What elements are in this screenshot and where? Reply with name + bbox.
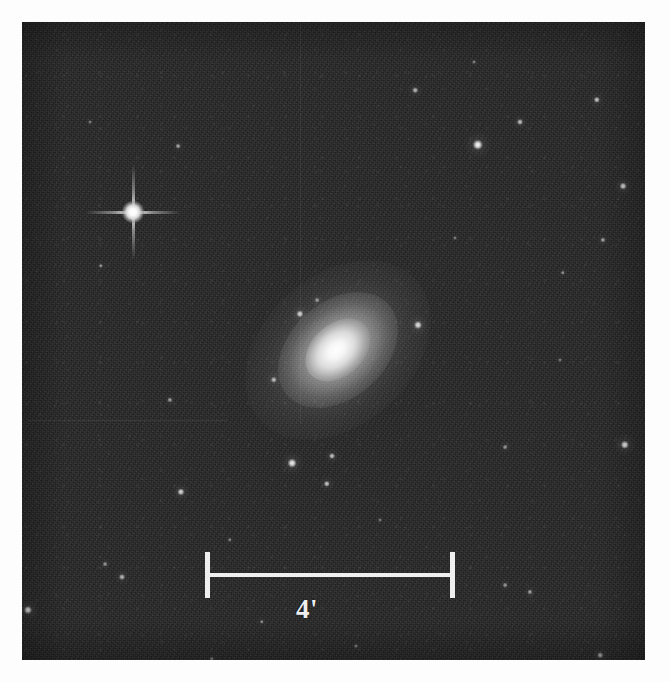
sky-image-plate: 4'	[22, 22, 645, 660]
star	[210, 657, 214, 660]
star	[414, 321, 422, 329]
star	[271, 377, 277, 383]
star	[228, 538, 232, 542]
galaxy-outer-halo	[210, 224, 466, 476]
film-grain-layer-a	[22, 22, 645, 660]
star	[324, 481, 330, 487]
plate-vignette	[22, 22, 645, 660]
star	[473, 140, 483, 150]
star	[620, 183, 627, 190]
star	[412, 87, 418, 93]
star	[472, 60, 476, 64]
star	[99, 264, 103, 268]
star	[558, 358, 562, 362]
star	[594, 97, 600, 103]
star	[260, 620, 264, 624]
star	[517, 119, 523, 125]
star	[296, 310, 303, 317]
scale-bar	[205, 552, 455, 598]
star	[88, 120, 92, 124]
star	[329, 453, 335, 459]
star	[453, 236, 457, 240]
star	[103, 562, 108, 567]
star	[503, 445, 508, 450]
star	[288, 459, 297, 468]
bright-star-with-diffraction-spikes	[85, 164, 181, 260]
star	[527, 589, 532, 594]
star	[621, 441, 629, 449]
star	[119, 574, 125, 580]
star	[354, 644, 358, 648]
scale-bar-tick-left	[205, 552, 210, 598]
bright-star-core	[122, 201, 144, 223]
film-grain-layer-b	[22, 22, 645, 660]
scan-line-artifact	[28, 420, 228, 421]
star	[167, 397, 172, 402]
scan-line-artifact-vertical	[300, 24, 301, 424]
galaxy	[210, 224, 466, 476]
star	[378, 518, 382, 522]
star	[315, 298, 320, 303]
scale-bar-rule	[205, 573, 455, 577]
star	[503, 583, 508, 588]
figure-page: 4'	[0, 0, 670, 682]
galaxy-core	[293, 306, 383, 394]
star	[561, 271, 565, 275]
star	[177, 488, 184, 495]
film-grain-layer-c	[22, 22, 645, 660]
star	[24, 606, 32, 614]
scale-bar-tick-right	[450, 552, 455, 598]
star	[600, 237, 605, 242]
scale-bar-label: 4'	[296, 596, 318, 623]
star	[597, 652, 603, 658]
galaxy-inner-halo	[255, 269, 420, 431]
star	[176, 144, 181, 149]
